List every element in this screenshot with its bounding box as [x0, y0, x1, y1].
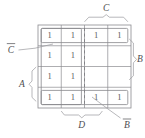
label-bottom-d: D	[77, 120, 85, 130]
karnaugh-map-figure: 1 1 1 1 1 1 1 1 1 1 1 1 C C A	[0, 0, 145, 138]
kmap-cell-r4c2: 1	[71, 92, 75, 102]
kmap-cell-r3c2: 1	[71, 71, 75, 81]
kmap-cell-r1c2: 1	[71, 30, 75, 40]
brace-bottom-d	[61, 111, 102, 118]
label-right-b: B	[137, 54, 143, 64]
kmap-cell-r1c3: 1	[94, 30, 98, 40]
kmap-cell-r4c4: 1	[117, 92, 121, 102]
kmap-cell-r2c2: 1	[71, 50, 75, 60]
brace-right-b	[129, 39, 136, 80]
label-left-a: A	[18, 79, 25, 89]
label-b-not: B	[124, 120, 130, 130]
kmap-cell-r1c4: 1	[117, 30, 121, 40]
label-top-c: C	[103, 3, 110, 13]
kmap-cell-r1c1: 1	[47, 30, 51, 40]
label-c-not: C	[8, 45, 15, 55]
brace-top-c	[85, 15, 128, 22]
kmap-cell-r4c1: 1	[47, 92, 51, 102]
kmap-cell-r3c1: 1	[47, 71, 51, 81]
kmap-cell-r2c1: 1	[47, 50, 51, 60]
brace-left-a	[29, 67, 36, 101]
leader-c-not	[19, 44, 54, 50]
